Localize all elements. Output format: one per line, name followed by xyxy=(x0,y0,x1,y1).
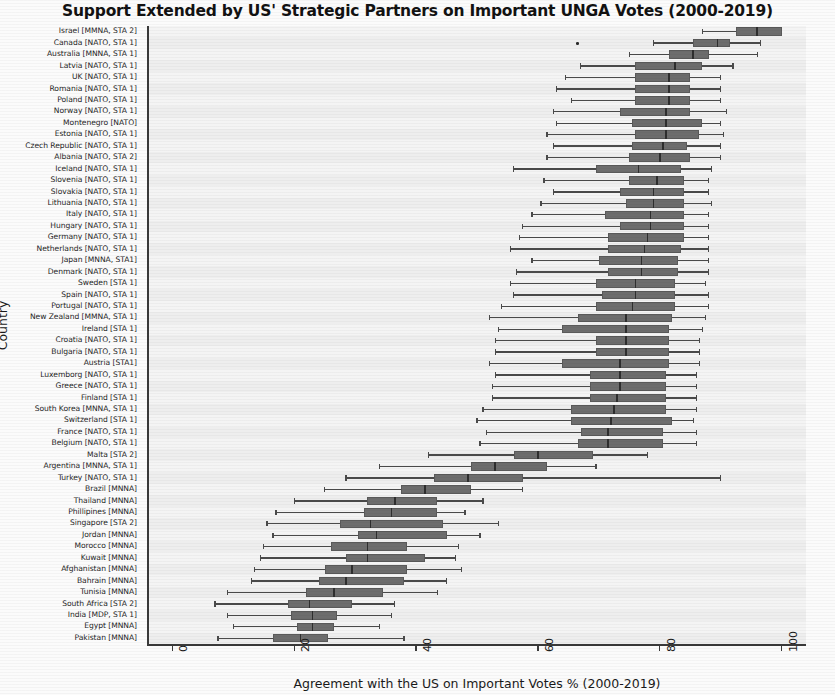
box-iqr[interactable] xyxy=(599,256,678,264)
boxplot-row[interactable] xyxy=(148,221,806,232)
boxplot-row[interactable] xyxy=(148,599,806,610)
box-iqr[interactable] xyxy=(596,348,669,356)
box-iqr[interactable] xyxy=(635,96,690,104)
boxplot-row[interactable] xyxy=(148,312,806,323)
box-iqr[interactable] xyxy=(434,474,522,482)
box-iqr[interactable] xyxy=(346,554,425,562)
boxplot-row[interactable] xyxy=(148,473,806,484)
boxplot-row[interactable] xyxy=(148,129,806,140)
boxplot-row[interactable] xyxy=(148,278,806,289)
boxplot-row[interactable] xyxy=(148,381,806,392)
boxplot-row[interactable] xyxy=(148,404,806,415)
box-iqr[interactable] xyxy=(632,142,687,150)
box-iqr[interactable] xyxy=(635,73,690,81)
box-iqr[interactable] xyxy=(514,451,593,459)
box-iqr[interactable] xyxy=(471,462,547,470)
box-iqr[interactable] xyxy=(571,405,665,413)
box-iqr[interactable] xyxy=(581,428,663,436)
box-iqr[interactable] xyxy=(358,531,446,539)
box-iqr[interactable] xyxy=(669,50,709,58)
box-iqr[interactable] xyxy=(319,577,404,585)
box-iqr[interactable] xyxy=(291,611,337,619)
boxplot-row[interactable] xyxy=(148,187,806,198)
boxplot-row[interactable] xyxy=(148,49,806,60)
boxplot-row[interactable] xyxy=(148,553,806,564)
boxplot-row[interactable] xyxy=(148,26,806,37)
box-iqr[interactable] xyxy=(297,623,334,631)
boxplot-row[interactable] xyxy=(148,106,806,117)
boxplot-row[interactable] xyxy=(148,496,806,507)
box-iqr[interactable] xyxy=(635,130,699,138)
box-iqr[interactable] xyxy=(367,497,437,505)
boxplot-row[interactable] xyxy=(148,118,806,129)
box-iqr[interactable] xyxy=(306,588,382,596)
boxplot-row[interactable] xyxy=(148,152,806,163)
boxplot-row[interactable] xyxy=(148,564,806,575)
boxplot-row[interactable] xyxy=(148,461,806,472)
box-iqr[interactable] xyxy=(401,485,471,493)
box-iqr[interactable] xyxy=(590,371,666,379)
box-iqr[interactable] xyxy=(578,439,663,447)
box-iqr[interactable] xyxy=(325,565,407,573)
boxplot-row[interactable] xyxy=(148,576,806,587)
boxplot-row[interactable] xyxy=(148,141,806,152)
box-iqr[interactable] xyxy=(596,302,675,310)
boxplot-row[interactable] xyxy=(148,95,806,106)
box-iqr[interactable] xyxy=(605,211,684,219)
boxplot-row[interactable] xyxy=(148,587,806,598)
boxplot-row[interactable] xyxy=(148,84,806,95)
boxplot-row[interactable] xyxy=(148,415,806,426)
box-iqr[interactable] xyxy=(288,600,352,608)
box-iqr[interactable] xyxy=(596,336,669,344)
box-iqr[interactable] xyxy=(635,62,702,70)
boxplot-row[interactable] xyxy=(148,610,806,621)
box-iqr[interactable] xyxy=(635,85,690,93)
box-iqr[interactable] xyxy=(340,520,444,528)
box-iqr[interactable] xyxy=(620,222,684,230)
boxplot-row[interactable] xyxy=(148,209,806,220)
box-iqr[interactable] xyxy=(626,199,684,207)
boxplot-row[interactable] xyxy=(148,335,806,346)
box-iqr[interactable] xyxy=(590,394,666,402)
boxplot-row[interactable] xyxy=(148,244,806,255)
boxplot-row[interactable] xyxy=(148,358,806,369)
boxplot-row[interactable] xyxy=(148,484,806,495)
boxplot-row[interactable] xyxy=(148,370,806,381)
boxplot-row[interactable] xyxy=(148,72,806,83)
box-iqr[interactable] xyxy=(364,508,437,516)
boxplot-row[interactable] xyxy=(148,633,806,644)
boxplot-row[interactable] xyxy=(148,518,806,529)
boxplot-row[interactable] xyxy=(148,541,806,552)
boxplot-row[interactable] xyxy=(148,267,806,278)
box-iqr[interactable] xyxy=(693,39,730,47)
boxplot-row[interactable] xyxy=(148,255,806,266)
boxplot-row[interactable] xyxy=(148,438,806,449)
boxplot-row[interactable] xyxy=(148,61,806,72)
boxplot-row[interactable] xyxy=(148,324,806,335)
box-iqr[interactable] xyxy=(331,542,407,550)
boxplot-row[interactable] xyxy=(148,301,806,312)
boxplot-row[interactable] xyxy=(148,38,806,49)
box-iqr[interactable] xyxy=(620,108,690,116)
boxplot-row[interactable] xyxy=(148,450,806,461)
boxplot-row[interactable] xyxy=(148,290,806,301)
boxplot-row[interactable] xyxy=(148,198,806,209)
box-iqr[interactable] xyxy=(608,268,678,276)
boxplot-row[interactable] xyxy=(148,232,806,243)
boxplot-row[interactable] xyxy=(148,507,806,518)
boxplot-row[interactable] xyxy=(148,175,806,186)
box-iqr[interactable] xyxy=(590,382,666,390)
boxplot-row[interactable] xyxy=(148,530,806,541)
box-iqr[interactable] xyxy=(562,325,669,333)
boxplot-row[interactable] xyxy=(148,621,806,632)
boxplot-row[interactable] xyxy=(148,347,806,358)
boxplot-row[interactable] xyxy=(148,393,806,404)
box-iqr[interactable] xyxy=(632,119,702,127)
box-iqr[interactable] xyxy=(571,417,672,425)
boxplot-row[interactable] xyxy=(148,164,806,175)
box-iqr[interactable] xyxy=(602,291,675,299)
box-iqr[interactable] xyxy=(562,359,669,367)
boxplot-row[interactable] xyxy=(148,427,806,438)
whisker-cap-high xyxy=(708,212,709,217)
box-iqr[interactable] xyxy=(736,27,782,35)
